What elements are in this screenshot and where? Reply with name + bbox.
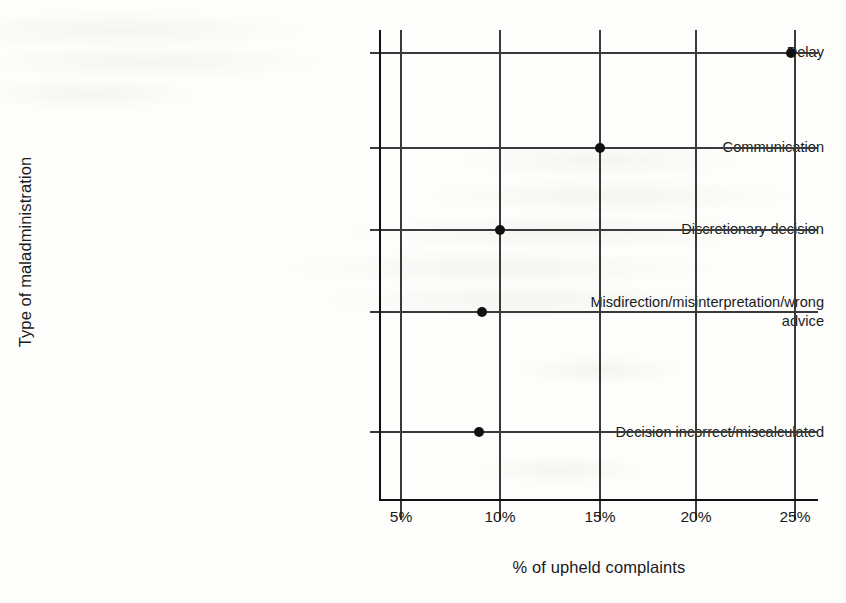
data-point-discretionary-decision[interactable] <box>495 225 505 235</box>
data-point-decision-incorrect[interactable] <box>474 427 484 437</box>
scatter-chart-figure: Type of maladministration Delay Communic… <box>0 0 846 603</box>
data-point-misdirection[interactable] <box>477 307 487 317</box>
x-axis-tick-label-20: 20% <box>661 508 731 526</box>
x-axis-tick-label-10: 10% <box>465 508 535 526</box>
data-point-communication[interactable] <box>595 143 605 153</box>
x-axis-tick-label-25: 25% <box>760 508 830 526</box>
data-point-delay[interactable] <box>786 48 796 58</box>
x-axis-tick-label-15: 15% <box>565 508 635 526</box>
x-axis-title: % of upheld complaints <box>380 558 818 577</box>
x-axis-tick-label-5: 5% <box>366 508 436 526</box>
